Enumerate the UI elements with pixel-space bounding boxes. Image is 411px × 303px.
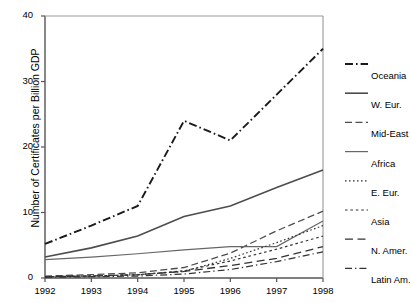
axes — [41, 16, 323, 282]
x-tick-label: 1994 — [118, 285, 158, 296]
series-line-oceania — [45, 49, 323, 244]
y-tick-label: 30 — [7, 75, 33, 86]
y-tick-label: 0 — [7, 271, 33, 282]
legend-item-e-eur: E. Eur. — [371, 187, 400, 198]
x-tick-label: 1992 — [25, 285, 65, 296]
legend-item-asia: Asia — [371, 216, 389, 227]
legend-item-n-amer: N. Amer. — [371, 245, 407, 256]
legend-item-oceania: Oceania — [371, 70, 406, 81]
series-line-n-amer — [45, 247, 323, 277]
x-tick-label: 1993 — [71, 285, 111, 296]
x-tick-label: 1995 — [164, 285, 204, 296]
legend-item-w-eur: W. Eur. — [371, 99, 402, 110]
x-tick-label: 1996 — [210, 285, 250, 296]
legend-item-mid-east: Mid-East — [371, 128, 408, 139]
x-tick-label: 1998 — [303, 285, 343, 296]
legend-item-latin-am: Latin Am. — [371, 274, 411, 285]
legend-item-africa: Africa — [371, 158, 395, 169]
legend-swatches — [345, 64, 368, 268]
x-tick-label: 1997 — [257, 285, 297, 296]
data-series-group — [45, 49, 323, 278]
series-line-e-eur — [45, 226, 323, 277]
series-line-latin-am — [45, 252, 323, 278]
y-tick-label: 20 — [7, 140, 33, 151]
y-axis-title: Number of Certificates per Billion GDP — [29, 18, 41, 258]
series-line-asia — [45, 236, 323, 277]
y-tick-label: 10 — [7, 206, 33, 217]
y-tick-label: 40 — [7, 9, 33, 20]
